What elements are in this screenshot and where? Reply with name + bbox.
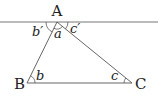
vertex-label-c: C xyxy=(135,75,146,93)
angle-arc-c-prime xyxy=(66,22,69,29)
side-ac xyxy=(57,22,132,83)
angle-arc-b xyxy=(31,76,36,83)
triangle-diagram: A B C b′ a c′ b c xyxy=(0,0,158,100)
angle-label-a: a xyxy=(54,26,62,41)
angle-label-b: b xyxy=(36,68,44,83)
angle-label-b-prime: b′ xyxy=(32,24,43,39)
angle-label-c: c xyxy=(111,68,119,83)
angle-arc-b-prime xyxy=(46,22,52,32)
angle-arc-c xyxy=(124,78,126,83)
vertex-label-b: B xyxy=(14,75,25,93)
angle-label-c-prime: c′ xyxy=(70,21,80,36)
vertex-label-a: A xyxy=(51,2,63,20)
